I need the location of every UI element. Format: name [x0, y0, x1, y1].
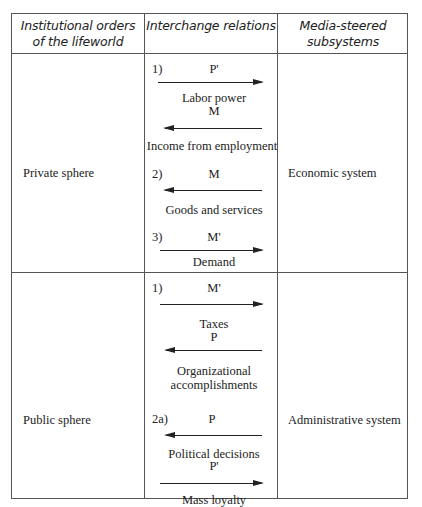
relation-label: Mass loyalty — [182, 493, 246, 507]
relation-number: 1) — [152, 62, 162, 76]
arrow-left-icon — [165, 190, 262, 191]
arrow-right-icon — [160, 304, 262, 305]
arrow-right-icon — [158, 82, 262, 83]
relation-number: 2a) — [152, 412, 168, 426]
relation-number: 2) — [152, 167, 162, 181]
relation-medium: P' — [209, 459, 218, 473]
relation-medium: M' — [207, 230, 220, 244]
relation-label: Labor power — [182, 91, 246, 105]
header-lifeworld-line1: Institutional orders — [12, 18, 144, 34]
lifeworld-private-sphere: Private sphere — [23, 166, 94, 180]
relation-label-line2: accomplishments — [171, 378, 258, 392]
header-subsystems-line1: Media-steered — [278, 18, 408, 34]
relation-medium: P — [211, 330, 218, 344]
header-lifeworld: Institutional orders of the lifeworld — [12, 18, 144, 50]
arrow-right-icon — [160, 250, 262, 251]
relation-medium: M' — [207, 281, 220, 295]
relation-number: 3) — [152, 230, 162, 244]
relation-medium: M — [208, 104, 219, 118]
interchange-relations-table: Institutional orders of the lifeworld In… — [11, 13, 408, 499]
relation-label: Income from employment — [147, 139, 278, 153]
row-divider — [12, 272, 407, 273]
header-interchange: Interchange relations — [145, 18, 277, 34]
header-lifeworld-line2: of the lifeworld — [12, 34, 144, 50]
arrow-left-icon — [166, 435, 262, 436]
relation-label: Demand — [193, 255, 235, 269]
relation-medium: P' — [209, 62, 218, 76]
header-interchange-text: Interchange relations — [145, 18, 277, 34]
column-divider-1 — [144, 14, 145, 498]
relation-label: Taxes — [200, 317, 229, 331]
arrow-left-icon — [165, 128, 262, 129]
relation-medium: M — [208, 167, 219, 181]
header-subsystems: Media-steered subsystems — [278, 18, 408, 50]
header-subsystems-line2: subsystems — [278, 34, 408, 50]
column-divider-2 — [277, 14, 278, 498]
arrow-left-icon — [166, 350, 262, 351]
relation-label: Goods and services — [165, 203, 262, 217]
subsystem-administrative-system: Administrative system — [288, 413, 401, 427]
header-divider — [12, 53, 407, 54]
relation-number: 1) — [152, 281, 162, 295]
relation-medium: P — [209, 412, 216, 426]
lifeworld-public-sphere: Public sphere — [23, 413, 91, 427]
arrow-right-icon — [160, 483, 262, 484]
relation-label-line1: Organizational — [177, 364, 251, 378]
subsystem-economic-system: Economic system — [288, 166, 377, 180]
